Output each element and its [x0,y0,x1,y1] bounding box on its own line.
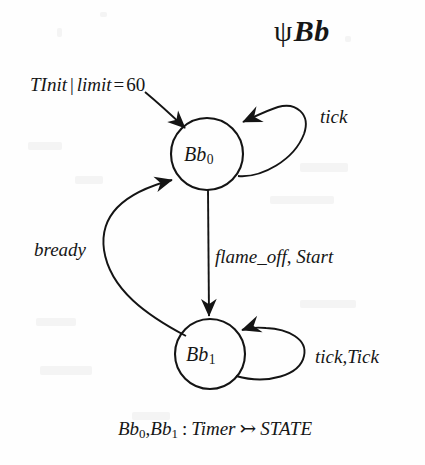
state-base-bb0: Bb [184,143,206,165]
diagram-title: ψBb [274,16,330,46]
edge-bb1-to-bb0[interactable] [103,180,186,336]
label-comma: , [287,246,292,267]
state-label-bb0: Bb0 [184,144,214,167]
edge-self-loop-bb0[interactable] [238,106,306,176]
edge-label-self-loop-bb0: tick [320,107,347,126]
diagram-page: ψBb TInit|limit=60 tick Bb0 bready flame… [0,0,425,465]
edge-label-initial-entry: TInit|limit=60 [30,75,145,94]
edge-label-bb0-to-bb1: flame_off, Start [215,247,333,266]
tick-upper-label: Tick [347,346,379,367]
psi-symbol: ψ [274,15,294,47]
caption-lhs-first: Bb [118,418,139,439]
caption-codomain: STATE [260,418,312,439]
state-subscript-bb0: 0 [206,152,213,167]
start-label: Start [296,246,333,267]
caption-lhs-second: Bb [150,418,171,439]
caption-domain: Timer [191,418,235,439]
edge-initial-entry[interactable] [145,92,185,128]
guard-variable: limit [77,74,112,95]
guard-operator: = [112,74,127,95]
title-name: Bb [294,14,330,47]
state-subscript-bb1: 1 [208,352,215,367]
tick-lower-label: tick [315,346,342,367]
edge-bb0-to-bb1[interactable] [208,190,209,316]
guard-value: 60 [126,74,145,95]
caption-lhs-second-sub: 1 [171,426,177,441]
edge-self-loop-bb1[interactable] [236,328,305,380]
guard-separator: | [67,74,77,95]
diagram-caption: Bb0,Bb1:Timer↣STATE [118,418,312,441]
state-base-bb1: Bb [186,343,208,365]
diagram-canvas [0,0,425,465]
flame-off-label: flame_off [215,246,287,267]
edge-label-bb1-to-bb0: bready [34,240,86,259]
caption-colon: : [178,418,191,439]
edge-label-self-loop-bb1: tick,Tick [315,347,379,366]
init-event-label: TInit [30,74,67,95]
injection-arrow-icon: ↣ [236,417,261,439]
state-label-bb1: Bb1 [186,344,216,367]
